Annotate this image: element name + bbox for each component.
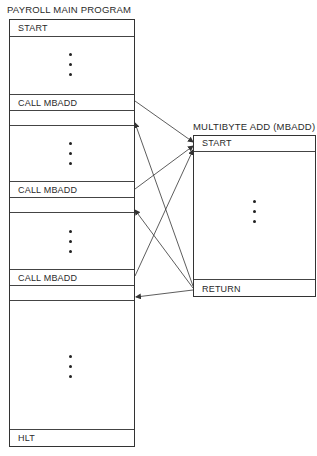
hlt-label: HLT xyxy=(18,433,35,443)
return-slot-row-3 xyxy=(10,285,134,301)
sub-return-label: RETURN xyxy=(202,284,241,294)
return-slot-row-1 xyxy=(10,110,134,126)
return-slot-row-2 xyxy=(10,197,134,213)
ellipsis-dots-sub xyxy=(253,200,257,230)
return-arrow-1 xyxy=(135,123,193,286)
sub-start-label: START xyxy=(202,138,232,148)
sub-start-row: START xyxy=(194,135,315,152)
main-start-label: START xyxy=(18,23,48,33)
call-mbadd-row-1: CALL MBADD xyxy=(10,94,134,111)
call-mbadd-row-3: CALL MBADD xyxy=(10,269,134,286)
main-program-box: START CALL MBADD CALL MBADD CALL MBADD H… xyxy=(9,19,135,447)
call-arrow-3 xyxy=(135,150,193,276)
return-arrow-3 xyxy=(136,290,193,297)
call-arrow-2 xyxy=(135,146,193,189)
subroutine-box: START RETURN xyxy=(193,135,316,297)
call-arrow-1 xyxy=(135,101,193,142)
return-arrow-2 xyxy=(135,210,193,288)
ellipsis-dots-3 xyxy=(69,230,73,260)
call-mbadd-label-2: CALL MBADD xyxy=(18,185,77,195)
call-mbadd-row-2: CALL MBADD xyxy=(10,181,134,198)
hlt-row: HLT xyxy=(10,429,134,446)
ellipsis-dots-4 xyxy=(69,355,73,385)
main-start-row: START xyxy=(10,19,134,37)
call-mbadd-label-1: CALL MBADD xyxy=(18,98,77,108)
ellipsis-dots-1 xyxy=(69,53,73,83)
main-program-title: PAYROLL MAIN PROGRAM xyxy=(7,4,131,15)
ellipsis-dots-2 xyxy=(69,142,73,172)
sub-return-row: RETURN xyxy=(194,279,315,297)
call-mbadd-label-3: CALL MBADD xyxy=(18,273,77,283)
subroutine-title: MULTIBYTE ADD (MBADD) xyxy=(193,121,315,132)
